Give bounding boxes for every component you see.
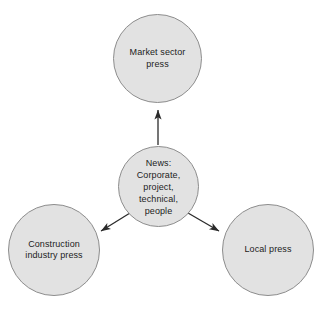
node-construction-industry-press[interactable]: Construction industry press [8,204,100,296]
edge-news-to-local [188,213,219,231]
node-local-press-label: Local press [240,244,295,255]
node-news-hub-label: News: Corporate, project, technical, peo… [133,157,185,217]
node-construction-industry-press-label: Construction industry press [21,239,86,262]
node-market-sector-press-label: Market sector press [126,47,190,70]
node-market-sector-press[interactable]: Market sector press [113,14,202,103]
diagram-canvas: Market sector press News: Corporate, pro… [0,0,321,309]
node-local-press[interactable]: Local press [222,204,314,296]
edge-news-to-construction [101,213,130,231]
node-news-hub[interactable]: News: Corporate, project, technical, peo… [118,146,199,227]
